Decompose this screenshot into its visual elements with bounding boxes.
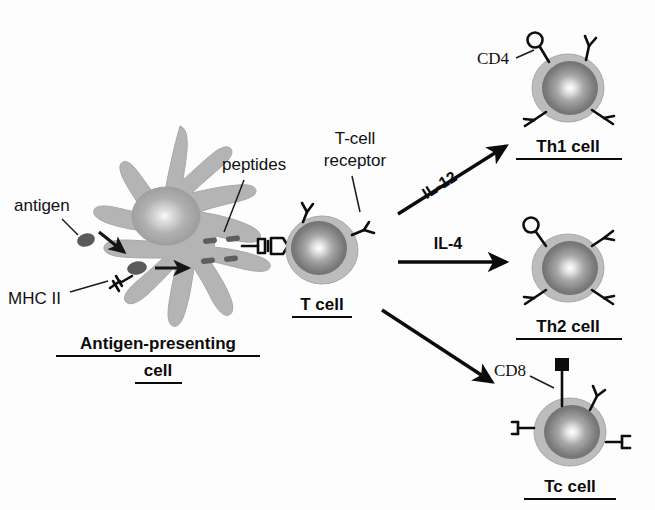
tc-cell: Tc cell — [512, 358, 630, 499]
differentiation-arrows: IL-12 IL-4 — [382, 146, 506, 382]
th1-cd4-marker — [528, 33, 550, 63]
antigen-particle — [76, 231, 97, 248]
t-cell: T cell — [286, 203, 374, 317]
mhc-ii-label: MHC II — [8, 289, 61, 308]
il4-arrow-label: IL-4 — [434, 235, 463, 252]
th2-cd4-marker — [524, 218, 547, 247]
immunology-diagram: Antigen-presenting cell T cell — [0, 0, 655, 510]
t-cell-nucleus — [291, 221, 347, 275]
cd8-label: CD8 — [494, 361, 526, 380]
apc-nucleus — [132, 187, 200, 245]
apc-caption-line2: cell — [144, 361, 172, 380]
th2-cell-caption: Th2 cell — [536, 317, 599, 336]
tc-cell-nucleus — [544, 405, 600, 459]
th2-cell-nucleus — [542, 241, 598, 295]
cd4-label: CD4 — [477, 49, 510, 68]
cd8-leader-line — [530, 376, 554, 388]
peptides-label: peptides — [222, 155, 286, 174]
th2-cell: Th2 cell — [516, 218, 622, 340]
tc-cell-caption: Tc cell — [544, 477, 596, 496]
antigen-label: antigen — [14, 196, 70, 215]
mhc-leader-line — [70, 281, 108, 292]
th1-cell-nucleus — [542, 61, 598, 115]
th1-cell-caption: Th1 cell — [536, 137, 599, 156]
tc-arrow — [382, 310, 492, 382]
cd8-square-glyph — [555, 358, 569, 371]
cd4-leader-line — [516, 50, 534, 58]
text-annotations: antigen MHC II peptides T-cell receptor … — [8, 49, 526, 380]
tcr-leader-line — [352, 176, 360, 212]
t-cell-caption: T cell — [300, 295, 343, 314]
diagram-canvas: Antigen-presenting cell T cell — [0, 0, 655, 510]
internalized-antigen-particle — [126, 260, 148, 276]
antigen-leader-line — [62, 219, 78, 235]
il12-arrow-label: IL-12 — [419, 168, 460, 202]
tcr-label-line1: T-cell — [335, 129, 376, 148]
apc-caption-line1: Antigen-presenting — [80, 334, 236, 353]
tcr-label-line2: receptor — [324, 151, 387, 170]
